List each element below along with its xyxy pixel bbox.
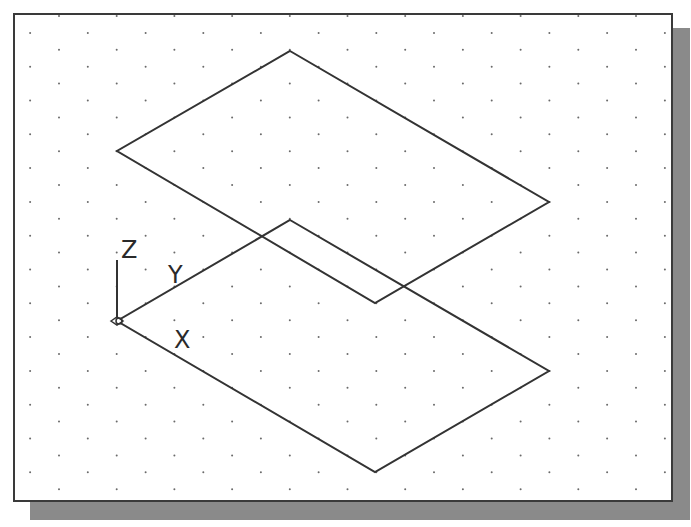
grid-dot	[29, 133, 31, 135]
grid-dot	[520, 116, 522, 118]
grid-dot	[29, 269, 31, 271]
grid-dot	[433, 32, 435, 34]
grid-dot	[520, 319, 522, 321]
grid-dot	[202, 471, 204, 473]
grid-dot	[202, 66, 204, 68]
grid-dot	[635, 83, 637, 85]
grid-dot	[173, 150, 175, 152]
grid-dot	[173, 83, 175, 85]
grid-dot	[606, 133, 608, 135]
grid-dot	[289, 184, 291, 186]
grid-dot	[520, 83, 522, 85]
grid-dot	[116, 83, 118, 85]
grid-dot	[664, 438, 666, 440]
grid-dot	[548, 235, 550, 237]
grid-dot	[347, 49, 349, 51]
grid-dot	[606, 167, 608, 169]
grid-dot	[375, 133, 377, 135]
grid-dot	[462, 353, 464, 355]
grid-dot	[145, 404, 147, 406]
grid-dot	[635, 353, 637, 355]
grid-dot	[347, 15, 349, 17]
grid-dot	[577, 319, 579, 321]
grid-dot	[173, 488, 175, 490]
grid-dot	[577, 285, 579, 287]
grid-dot	[116, 49, 118, 51]
grid-dot	[375, 201, 377, 203]
grid-dot	[606, 32, 608, 34]
grid-dot	[87, 471, 89, 473]
grid-dot	[289, 83, 291, 85]
grid-dot	[375, 404, 377, 406]
grid-dot	[116, 116, 118, 118]
grid-dot	[462, 218, 464, 220]
grid-dot	[318, 133, 320, 135]
grid-dot	[577, 218, 579, 220]
grid-dot	[520, 252, 522, 254]
grid-dot	[462, 83, 464, 85]
grid-dot	[548, 100, 550, 102]
grid-dot	[289, 319, 291, 321]
grid-dot	[491, 201, 493, 203]
grid-dot	[116, 15, 118, 17]
grid-dot	[606, 302, 608, 304]
grid-dot	[404, 15, 406, 17]
grid-dot	[116, 421, 118, 423]
grid-dot	[404, 150, 406, 152]
grid-dot	[173, 421, 175, 423]
grid-dot	[145, 235, 147, 237]
grid-dot	[404, 49, 406, 51]
grid-dot	[58, 252, 60, 254]
grid-dot	[635, 150, 637, 152]
grid-dot	[404, 83, 406, 85]
grid-dot	[577, 184, 579, 186]
grid-dot	[29, 167, 31, 169]
grid-dot	[375, 438, 377, 440]
grid-dot	[606, 235, 608, 237]
grid-dot	[433, 167, 435, 169]
ucs-z-label: Z	[121, 236, 137, 264]
grid-dot	[433, 336, 435, 338]
grid-dot	[520, 285, 522, 287]
grid-dot	[58, 353, 60, 355]
grid-dot	[664, 471, 666, 473]
grid-dot	[58, 488, 60, 490]
grid-dot	[231, 116, 233, 118]
grid-dot	[635, 49, 637, 51]
drawing-canvas[interactable]: Z Y X	[0, 0, 691, 527]
grid-dot	[173, 218, 175, 220]
grid-dot	[462, 285, 464, 287]
grid-dot	[260, 336, 262, 338]
grid-dot	[260, 471, 262, 473]
grid-dot	[664, 235, 666, 237]
grid-dot	[145, 471, 147, 473]
grid-dot	[87, 336, 89, 338]
grid-dot	[577, 49, 579, 51]
grid-dot	[433, 404, 435, 406]
grid-dot	[548, 404, 550, 406]
grid-dot	[635, 252, 637, 254]
grid-dot	[58, 49, 60, 51]
grid-dot	[347, 150, 349, 152]
grid-dot	[347, 116, 349, 118]
grid-dot	[318, 100, 320, 102]
grid-dot	[635, 454, 637, 456]
grid-dot	[87, 404, 89, 406]
grid-dot	[577, 150, 579, 152]
grid-dot	[116, 454, 118, 456]
grid-dot	[520, 15, 522, 17]
grid-dot	[58, 116, 60, 118]
grid-dot	[491, 269, 493, 271]
grid-dot	[116, 488, 118, 490]
grid-dot	[289, 15, 291, 17]
grid-dot	[606, 471, 608, 473]
grid-dot	[260, 133, 262, 135]
grid-dot	[87, 438, 89, 440]
grid-dot	[347, 184, 349, 186]
grid-dot	[635, 184, 637, 186]
grid-dot	[173, 319, 175, 321]
grid-dot	[318, 167, 320, 169]
grid-dot	[577, 83, 579, 85]
grid-dot	[145, 370, 147, 372]
grid-dot	[231, 184, 233, 186]
